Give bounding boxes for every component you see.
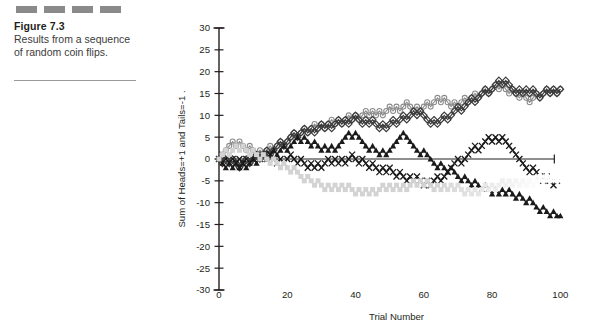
x-tick-label: 100 — [552, 289, 568, 300]
y-tick-label: -30 — [196, 284, 210, 295]
y-tick-label: -15 — [196, 219, 210, 230]
x-tick-label: 40 — [350, 289, 361, 300]
coin-flip-random-walk-chart: 302520151050-5-10-15-20-25-3002040608010… — [0, 0, 604, 333]
y-tick-label: 5 — [205, 132, 210, 143]
y-tick-label: 25 — [199, 44, 210, 55]
x-tick-label: 0 — [216, 289, 221, 300]
y-tick-label: -20 — [196, 241, 210, 252]
y-tick-label: -25 — [196, 263, 210, 274]
x-tick-label: 80 — [487, 289, 498, 300]
x-axis-title: Trial Number — [369, 311, 425, 322]
plot-svg: 302520151050-5-10-15-20-25-3002040608010… — [0, 0, 604, 333]
x-tick-label: 20 — [282, 289, 293, 300]
y-tick-label: 20 — [199, 66, 210, 77]
y-axis-title: Sum of Heads=+1 and Tails=-1 . — [176, 90, 187, 227]
y-tick-label: 15 — [199, 88, 210, 99]
y-tick-label: -5 — [201, 175, 210, 186]
y-tick-label: -10 — [196, 197, 210, 208]
y-tick-label: 10 — [199, 110, 210, 121]
x-tick-label: 60 — [418, 289, 429, 300]
y-tick-label: 0 — [205, 153, 210, 164]
y-tick-label: 30 — [199, 22, 210, 33]
